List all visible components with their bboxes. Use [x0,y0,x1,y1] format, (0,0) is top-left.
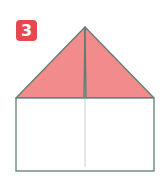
right-folded-flap [85,27,154,98]
left-folded-flap [16,27,85,98]
fold-diagram [0,0,166,179]
